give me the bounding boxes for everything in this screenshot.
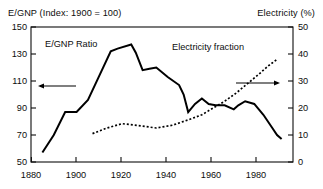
- right-tick-label-40: 40: [298, 49, 308, 59]
- right-axis-title: Electricity (%): [257, 8, 315, 18]
- x-tick-label-1940: 1940: [156, 170, 176, 180]
- chart-svg: E/GNP (Index: 1900 = 100) Electricity (%…: [0, 0, 323, 189]
- left-tick-label-50: 50: [17, 157, 27, 167]
- electricity-series-label: Electricity fraction: [172, 42, 244, 52]
- right-tick-label-50: 50: [298, 22, 308, 32]
- left-tick-label-70: 70: [17, 130, 27, 140]
- egnp-series-label: E/GNP Ratio: [45, 39, 97, 49]
- x-tick-label-1900: 1900: [66, 170, 86, 180]
- chart-background: [0, 0, 323, 189]
- x-tick-label-1960: 1960: [201, 170, 221, 180]
- left-tick-label-150: 150: [12, 22, 27, 32]
- right-tick-label-20: 20: [298, 103, 308, 113]
- left-tick-label-110: 110: [12, 76, 27, 86]
- right-tick-label-0: 0: [298, 157, 303, 167]
- x-tick-label-1980: 1980: [246, 170, 266, 180]
- right-tick-label-30: 30: [298, 76, 308, 86]
- chart-container: E/GNP (Index: 1900 = 100) Electricity (%…: [0, 0, 323, 189]
- x-tick-label-1880: 1880: [21, 170, 41, 180]
- left-tick-label-90: 90: [17, 103, 27, 113]
- left-axis-title: E/GNP (Index: 1900 = 100): [8, 8, 121, 18]
- left-tick-label-130: 130: [12, 49, 27, 59]
- right-tick-label-10: 10: [298, 130, 308, 140]
- x-tick-label-1920: 1920: [111, 170, 131, 180]
